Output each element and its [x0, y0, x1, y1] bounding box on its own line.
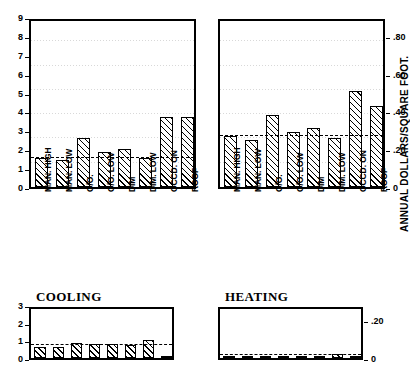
y-axis-tick-mark	[25, 76, 29, 77]
y-axis-tick-label: .20	[371, 316, 384, 326]
gridline	[31, 65, 194, 66]
y-axis-tick-label: 1	[3, 164, 23, 174]
y-axis-tick-label: 2	[3, 145, 23, 155]
y-axis-tick-mark	[386, 38, 390, 39]
bar	[34, 347, 45, 358]
y-axis-tick-label: 3	[3, 126, 23, 136]
bar	[350, 356, 361, 358]
y-axis-tick-label: 7	[3, 51, 23, 61]
x-axis-category-label: ROOF	[190, 168, 200, 192]
y-axis-tick-label: .80	[393, 32, 406, 42]
y-axis-tick-label: 0	[371, 354, 376, 364]
y-axis-tick-label: 9	[3, 13, 23, 23]
x-axis-category-label: MAN. HIGH	[43, 148, 53, 192]
bar	[278, 356, 289, 358]
x-axis-category-label: DIM	[316, 177, 326, 192]
plot-area-cooling	[29, 307, 174, 360]
y-axis-tick-label: 3	[3, 301, 23, 311]
x-axis-category-label: O/O.	[85, 174, 95, 192]
y-axis-tick-mark	[386, 76, 390, 77]
gridline	[31, 89, 194, 90]
y-axis-tick-label: 2	[3, 319, 23, 329]
y-axis-tick-mark	[386, 151, 390, 152]
chart-panel-cooling: COOLING 0123	[0, 270, 203, 390]
bar	[53, 347, 64, 358]
chart-title-cooling: COOLING	[36, 289, 102, 305]
y-axis-tick-label: 8	[3, 32, 23, 42]
y-axis-tick-mark	[386, 113, 390, 114]
x-axis-category-label: DIM	[127, 177, 137, 192]
y-axis-tick-mark	[364, 322, 368, 323]
x-axis-category-label: O/O. LOW	[295, 153, 305, 192]
bar	[107, 344, 118, 358]
y-axis-tick-mark	[25, 189, 29, 190]
reference-line	[220, 135, 383, 136]
y-axis-tick-mark	[25, 132, 29, 133]
x-axis-category-label: O/O.	[274, 174, 284, 192]
y-axis-tick-label: 0	[393, 183, 398, 193]
bar	[223, 356, 234, 358]
reference-line	[220, 354, 361, 355]
y-axis-tick-mark	[25, 342, 29, 343]
chart-panel-heating: HEATING 0.20	[203, 270, 406, 390]
chart-panel-total: TOTAL 0.20.40.60.80 MAN. HIGHMAN. LOWO/O…	[203, 0, 406, 270]
y-axis-tick-mark	[25, 19, 29, 20]
y-axis-tick-label: 1	[3, 336, 23, 346]
x-axis-category-label: OCCD. ON	[358, 150, 368, 192]
y-axis-tick-mark	[25, 95, 29, 96]
y-axis-tick-mark	[25, 57, 29, 58]
y-axis-tick-label: 6	[3, 70, 23, 80]
y-axis-tick-mark	[25, 325, 29, 326]
bar	[161, 356, 172, 358]
right-axis-title: ANNUAL DOLLARS/SQUARE FOOT.	[399, 56, 410, 232]
bar	[242, 356, 253, 358]
y-axis-tick-mark	[25, 170, 29, 171]
bar	[89, 344, 100, 358]
plot-area-heating	[218, 307, 363, 360]
x-axis-category-label: O/O. LOW	[106, 153, 116, 192]
x-axis-category-label: DIM. LOW	[148, 153, 158, 192]
bar	[260, 356, 271, 358]
y-axis-tick-mark	[25, 38, 29, 39]
x-axis-category-label: MAN. LOW	[253, 149, 263, 192]
gridline	[31, 113, 194, 114]
gridline	[220, 40, 383, 41]
y-axis-tick-label: 5	[3, 89, 23, 99]
y-axis-tick-label: 0	[3, 183, 23, 193]
x-axis-category-label: OCCD. ON	[169, 150, 179, 192]
x-axis-category-label: MAN. LOW	[64, 149, 74, 192]
bar	[125, 345, 136, 358]
y-axis-tick-label: 0	[3, 354, 23, 364]
x-axis-category-label: DIM. LOW	[337, 153, 347, 192]
y-axis-tick-mark	[25, 113, 29, 114]
y-axis-tick-mark	[25, 151, 29, 152]
chart-title-heating: HEATING	[225, 289, 288, 305]
x-axis-category-label: ROOF	[379, 168, 389, 192]
bar	[71, 343, 82, 358]
bar	[296, 356, 307, 358]
x-axis-category-label: MAN. HIGH	[232, 148, 242, 192]
chart-panel-lighting: LIGHTING 0123456789 MAN. HIGHMAN. LOWO/O…	[0, 0, 203, 270]
y-axis-tick-mark	[25, 307, 29, 308]
y-axis-tick-label: 4	[3, 107, 23, 117]
bar	[314, 356, 325, 358]
gridline	[31, 40, 194, 41]
y-axis-tick-mark	[364, 360, 368, 361]
y-axis-tick-mark	[25, 360, 29, 361]
gridline	[220, 65, 383, 66]
reference-line	[31, 344, 172, 345]
